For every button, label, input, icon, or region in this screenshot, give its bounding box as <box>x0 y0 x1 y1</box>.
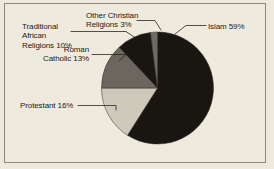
leader-line-traditional-african <box>71 32 134 38</box>
pie-label-protestant: Protestant 16% <box>20 101 73 110</box>
pie-label-other-christian: Other Christian Religions 3% <box>86 11 138 30</box>
chart-figure: Traditional African Religions 10% Other … <box>0 0 274 169</box>
pie-slices <box>102 32 214 144</box>
leader-line-islam <box>175 26 206 35</box>
pie-label-islam: Islam 59% <box>208 22 244 31</box>
pie-label-roman-catholic: Roman Catholic 13% <box>33 45 89 64</box>
leader-line-other-christian <box>137 21 161 31</box>
